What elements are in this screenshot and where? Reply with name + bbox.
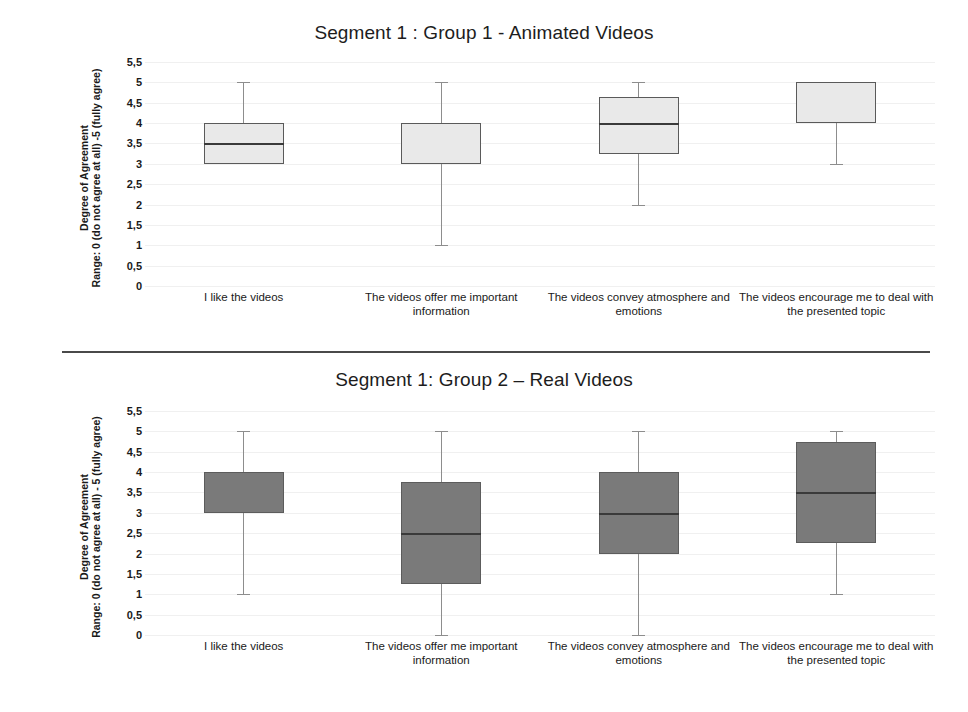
upper-whisker-cap xyxy=(237,431,250,432)
y-tick-label: 4,5 xyxy=(127,97,142,109)
y-tick-label: 2 xyxy=(136,199,142,211)
lower-whisker-line xyxy=(836,123,837,164)
y-tick-label: 0 xyxy=(136,629,142,641)
category-label: The videos offer me important informatio… xyxy=(343,639,541,667)
y-tick-label: 2,5 xyxy=(127,178,142,190)
box-body xyxy=(599,97,679,154)
lower-whisker-cap xyxy=(435,245,448,246)
y-tick-label: 3,5 xyxy=(127,137,142,149)
lower-whisker-cap xyxy=(237,594,250,595)
category-label: The videos encourage me to deal with the… xyxy=(738,639,936,667)
median-line xyxy=(599,123,679,125)
median-line xyxy=(796,492,876,494)
upper-whisker-cap xyxy=(237,82,250,83)
y-tick-label: 4 xyxy=(136,466,142,478)
box-plot[interactable] xyxy=(204,411,284,635)
y-tick-label: 0,5 xyxy=(127,609,142,621)
chart-panel-group1: Segment 1 : Group 1 - Animated Videos De… xyxy=(0,0,968,352)
plot-area xyxy=(145,411,935,635)
lower-whisker-cap xyxy=(830,164,843,165)
box-plot[interactable] xyxy=(401,411,481,635)
category-label: The videos offer me important informatio… xyxy=(343,290,541,318)
y-tick-label: 1,5 xyxy=(127,219,142,231)
category-label: The videos encourage me to deal with the… xyxy=(738,290,936,318)
y-tick-label: 2 xyxy=(136,548,142,560)
median-line xyxy=(401,533,481,535)
y-tick-label: 4,5 xyxy=(127,446,142,458)
category-label: I like the videos xyxy=(145,290,343,304)
y-axis-title-line2: Range: 0 (do not agree at all) - 5 (full… xyxy=(90,412,102,642)
y-axis-tick-labels: 00,511,522,533,544,555,5 xyxy=(108,411,142,635)
category-label: I like the videos xyxy=(145,639,343,653)
category-label: The videos convey atmosphere and emotion… xyxy=(540,639,738,667)
lower-whisker-cap xyxy=(830,594,843,595)
y-axis-tick-labels: 00,511,522,533,544,555,5 xyxy=(108,62,142,286)
box-plot[interactable] xyxy=(796,62,876,286)
chart-page: Segment 1 : Group 1 - Animated Videos De… xyxy=(0,0,968,712)
box-body xyxy=(401,123,481,164)
category-label: The videos convey atmosphere and emotion… xyxy=(540,290,738,318)
y-axis-title: Degree of Agreement Range: 0 (do not agr… xyxy=(78,63,102,293)
y-tick-label: 1,5 xyxy=(127,568,142,580)
lower-whisker-line xyxy=(243,513,244,594)
gridline xyxy=(145,286,935,287)
y-tick-label: 1 xyxy=(136,588,142,600)
upper-whisker-line xyxy=(638,431,639,472)
y-tick-label: 5 xyxy=(136,425,142,437)
box-plot[interactable] xyxy=(796,411,876,635)
y-axis-title-line1: Degree of Agreement xyxy=(78,412,90,642)
upper-whisker-line xyxy=(836,431,837,441)
plot-area xyxy=(145,62,935,286)
y-axis-title-line1: Degree of Agreement xyxy=(78,63,90,293)
upper-whisker-line xyxy=(243,82,244,123)
lower-whisker-line xyxy=(638,554,639,635)
box-body xyxy=(204,472,284,513)
upper-whisker-line xyxy=(441,82,442,123)
y-tick-label: 2,5 xyxy=(127,527,142,539)
lower-whisker-cap xyxy=(435,635,448,636)
gridline xyxy=(145,635,935,636)
y-tick-label: 0,5 xyxy=(127,260,142,272)
lower-whisker-cap xyxy=(632,635,645,636)
lower-whisker-line xyxy=(638,154,639,205)
lower-whisker-line xyxy=(441,164,442,245)
y-tick-label: 4 xyxy=(136,117,142,129)
chart-title: Segment 1 : Group 1 - Animated Videos xyxy=(0,22,968,44)
upper-whisker-line xyxy=(441,431,442,482)
y-tick-label: 5,5 xyxy=(127,405,142,417)
lower-whisker-cap xyxy=(632,205,645,206)
upper-whisker-line xyxy=(243,431,244,472)
y-tick-label: 5 xyxy=(136,76,142,88)
upper-whisker-cap xyxy=(632,82,645,83)
y-tick-label: 5,5 xyxy=(127,56,142,68)
lower-whisker-line xyxy=(836,543,837,594)
y-tick-label: 0 xyxy=(136,280,142,292)
lower-whisker-line xyxy=(441,584,442,635)
box-body xyxy=(796,82,876,123)
box-plot[interactable] xyxy=(599,411,679,635)
y-tick-label: 3,5 xyxy=(127,486,142,498)
y-axis-title-line2: Range: 0 (do not agree at all) -5 (fully… xyxy=(90,63,102,293)
upper-whisker-cap xyxy=(632,431,645,432)
y-tick-label: 3 xyxy=(136,507,142,519)
chart-panel-group2: Segment 1: Group 2 – Real Videos Degree … xyxy=(0,354,968,712)
box-plot[interactable] xyxy=(204,62,284,286)
median-line xyxy=(599,513,679,515)
y-tick-label: 3 xyxy=(136,158,142,170)
box-plot[interactable] xyxy=(599,62,679,286)
y-tick-label: 1 xyxy=(136,239,142,251)
upper-whisker-cap xyxy=(435,82,448,83)
chart-title: Segment 1: Group 2 – Real Videos xyxy=(0,369,968,391)
y-axis-title: Degree of Agreement Range: 0 (do not agr… xyxy=(78,412,102,642)
median-line xyxy=(204,143,284,145)
upper-whisker-line xyxy=(638,82,639,96)
upper-whisker-cap xyxy=(435,431,448,432)
box-plot[interactable] xyxy=(401,62,481,286)
upper-whisker-cap xyxy=(830,431,843,432)
